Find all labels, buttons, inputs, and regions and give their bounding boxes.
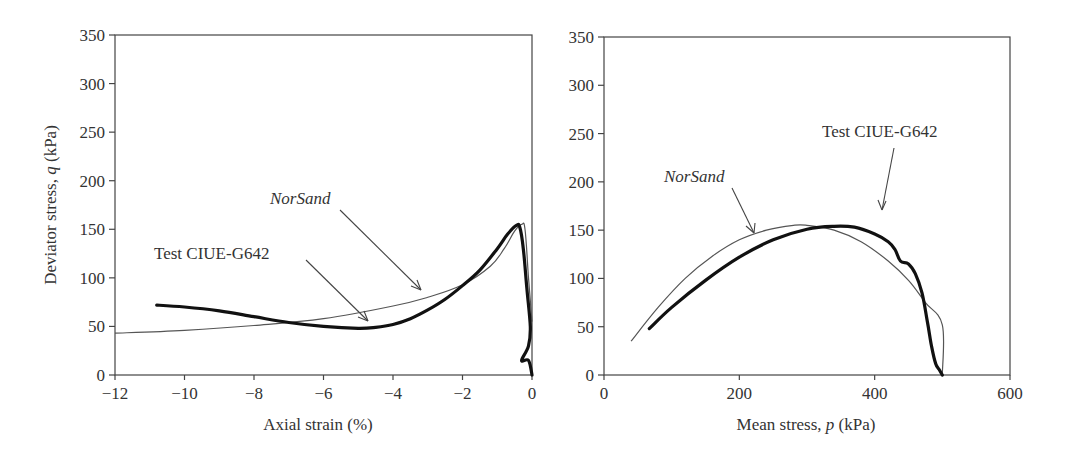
x-tick-label: 200 — [727, 384, 753, 403]
x-tick-label: 0 — [528, 384, 537, 403]
x-tick-label: 400 — [862, 384, 888, 403]
right-norsand-arrowhead-icon — [746, 223, 755, 233]
left-test-arrow — [306, 260, 368, 321]
x-tick-label: −8 — [245, 384, 263, 403]
left-chart: 050100150200250300350 −12−10−8−6−4−20 De… — [41, 26, 536, 434]
y-tick-label: 0 — [586, 366, 595, 385]
y-tick-label: 100 — [569, 269, 595, 288]
right-y-axis: 050100150200250300350 — [569, 28, 605, 385]
y-tick-label: 250 — [569, 125, 595, 144]
right-chart: 050100150200250300350 0200400600 Mean st… — [569, 28, 1023, 434]
x-tick-label: −12 — [102, 384, 129, 403]
left-y-axis: 050100150200250300350 — [80, 26, 116, 385]
right-x-axis-label: Mean stress, p (kPa) — [737, 415, 876, 434]
right-test-annotation: Test CIUE-G642 — [822, 122, 937, 141]
y-tick-label: 200 — [80, 172, 106, 191]
x-tick-label: −6 — [314, 384, 332, 403]
left-x-axis-label: Axial strain (%) — [263, 415, 373, 434]
y-tick-label: 0 — [97, 366, 106, 385]
right-norsand-annotation: NorSand — [663, 167, 725, 186]
right-test-arrow — [882, 148, 894, 210]
left-norsand-annotation: NorSand — [269, 189, 331, 208]
y-tick-label: 50 — [577, 318, 594, 337]
y-tick-label: 300 — [80, 75, 106, 94]
y-tick-label: 150 — [569, 221, 595, 240]
y-tick-label: 50 — [88, 317, 105, 336]
x-tick-label: 0 — [600, 384, 609, 403]
right-norsand-curve — [631, 225, 944, 375]
figure: 050100150200250300350 −12−10−8−6−4−20 De… — [0, 0, 1068, 463]
left-y-axis-label: Deviator stress, q (kPa) — [41, 125, 60, 285]
left-x-axis: −12−10−8−6−4−20 — [102, 375, 537, 403]
left-norsand-arrow — [340, 210, 421, 290]
right-norsand-arrow — [732, 188, 754, 233]
x-tick-label: −4 — [384, 384, 403, 403]
x-tick-label: 600 — [997, 384, 1023, 403]
right-x-axis: 0200400600 — [600, 375, 1023, 403]
x-tick-label: −10 — [171, 384, 198, 403]
right-plot-frame — [604, 37, 1010, 375]
y-tick-label: 200 — [569, 173, 595, 192]
y-tick-label: 350 — [569, 28, 595, 47]
y-tick-label: 150 — [80, 220, 106, 239]
y-tick-label: 350 — [80, 26, 106, 45]
right-test-curve — [649, 226, 942, 375]
x-tick-label: −2 — [453, 384, 471, 403]
y-tick-label: 100 — [80, 269, 106, 288]
left-test-annotation: Test CIUE-G642 — [154, 244, 269, 263]
y-tick-label: 300 — [569, 76, 595, 95]
y-tick-label: 250 — [80, 123, 106, 142]
